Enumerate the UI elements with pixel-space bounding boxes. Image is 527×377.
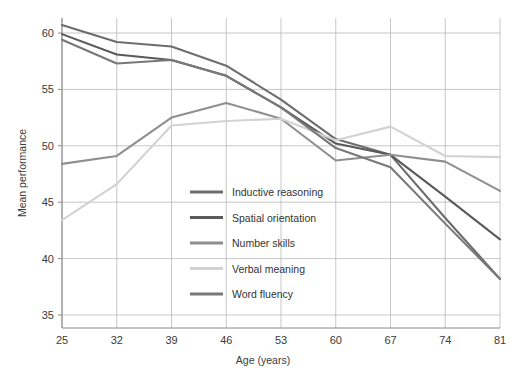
- x-axis-tick-label: 32: [111, 334, 123, 346]
- x-axis-tick-label: 60: [330, 334, 342, 346]
- legend-label: Inductive reasoning: [232, 186, 323, 198]
- legend-label: Spatial orientation: [232, 212, 316, 224]
- y-axis-tick-label: 50: [42, 140, 54, 152]
- x-axis-tick-label: 25: [56, 334, 68, 346]
- line-chart: 354045505560 253239465360677481 Inductiv…: [0, 0, 527, 377]
- x-axis-title: Age (years): [236, 354, 290, 366]
- legend-label: Number skills: [232, 237, 295, 249]
- y-axis-tick-label: 40: [42, 253, 54, 265]
- y-axis-tick-label: 35: [42, 309, 54, 321]
- y-axis-tick-label: 55: [42, 83, 54, 95]
- x-axis-tick-label: 39: [165, 334, 177, 346]
- legend-label: Verbal meaning: [232, 263, 305, 275]
- y-axis-tick-label: 60: [42, 27, 54, 39]
- y-axis-tick-label: 45: [42, 196, 54, 208]
- x-axis-tick-label: 81: [494, 334, 506, 346]
- x-axis-tick-label: 67: [384, 334, 396, 346]
- x-axis-tick-label: 74: [439, 334, 451, 346]
- legend-label: Word fluency: [232, 288, 294, 300]
- x-axis-tick-label: 53: [275, 334, 287, 346]
- chart-canvas: 354045505560 253239465360677481 Inductiv…: [0, 0, 527, 377]
- y-axis-title: Mean performance: [16, 129, 28, 217]
- x-axis-tick-label: 46: [220, 334, 232, 346]
